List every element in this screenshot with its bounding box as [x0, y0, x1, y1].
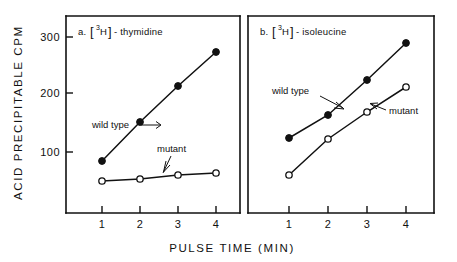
panel-b-x-ticklabel-2: 2: [325, 218, 332, 230]
panel-b-title: b. [ 3 H ] - isoleucine: [260, 24, 346, 39]
panel-a-x-ticklabel-4: 4: [213, 218, 220, 230]
figure-container: ACID PRECIPITABLE CPM 300 200 100 1: [0, 0, 457, 262]
panel-a-wild-type-point-3: [175, 83, 182, 90]
panel-b-x-ticklabel-4: 4: [403, 218, 410, 230]
panel-a-mutant-arrowhead: [164, 161, 171, 172]
panel-a-mutant-point-3: [175, 172, 181, 178]
panel-b-wild-type-point-2: [325, 112, 332, 119]
panel-b-mutant-line: [289, 87, 406, 175]
panel-b-mutant-label: mutant: [389, 105, 418, 116]
panel-b-axes: 1 2 3 4: [248, 16, 434, 230]
panel-a-wild-type-label: wild type: [91, 119, 129, 130]
panel-a-wild-type-annotation: wild type: [91, 119, 161, 130]
panel-b-mutant-point-4: [403, 84, 409, 90]
x-axis-title: PULSE TIME (MIN): [169, 242, 295, 254]
panel-a-series-mutant: [99, 170, 219, 184]
panel-b-wild-type-point-1: [286, 135, 293, 142]
panel-b-x-ticklabel-3: 3: [364, 218, 371, 230]
panel-b-bracket-close: ]: [290, 24, 294, 39]
panel-b-wild-type-point-4: [403, 40, 410, 47]
panel-a-mutant-annotation: mutant: [157, 143, 186, 173]
panel-a-mutant-line: [102, 173, 216, 181]
y-ticklabel-300: 300: [40, 31, 60, 43]
y-ticklabel-200: 200: [40, 87, 60, 99]
y-axis-title: ACID PRECIPITABLE CPM: [12, 25, 24, 200]
panel-a-mutant-point-1: [99, 178, 105, 184]
panel-a-wild-type-point-4: [213, 49, 220, 56]
panel-b-wild-type-leader: [320, 96, 343, 108]
panel-a-mutant-point-4: [213, 170, 219, 176]
panel-a-mutant-label: mutant: [157, 143, 186, 154]
chart-svg: ACID PRECIPITABLE CPM 300 200 100 1: [0, 0, 457, 262]
panel-b-mutant-point-1: [286, 172, 292, 178]
panel-a-x-ticklabel-3: 3: [175, 218, 182, 230]
panel-a-title: a. [ 3 H ] - thymidine: [78, 24, 163, 39]
panel-a-title-prefix: a.: [78, 26, 86, 37]
panel-b-title-prefix: b.: [260, 26, 268, 37]
panel-b-x-ticklabel-1: 1: [286, 218, 293, 230]
y-ticklabel-100: 100: [40, 146, 60, 158]
panel-a-isotope-element: H: [100, 26, 107, 37]
panel-b-title-suffix: - isoleucine: [296, 26, 346, 37]
panel-a-title-suffix: - thymidine: [114, 26, 163, 37]
panel-b-wild-type-annotation: wild type: [271, 85, 344, 109]
panel-b-wild-type-point-3: [364, 77, 371, 84]
panel-a-x-ticklabel-2: 2: [137, 218, 144, 230]
panel-b-isotope-element: H: [282, 26, 289, 37]
panel-a-wild-type-point-1: [99, 158, 106, 165]
panel-a-mutant-point-2: [137, 176, 143, 182]
panel-a-bracket-close: ]: [108, 24, 112, 39]
panel-b-mutant-point-3: [364, 109, 370, 115]
panel-b-bracket-open: [: [272, 24, 276, 39]
panel-a-x-ticklabel-1: 1: [99, 218, 106, 230]
panel-a-bracket-open: [: [90, 24, 94, 39]
panel-b-wild-type-label: wild type: [271, 85, 309, 96]
panel-a-wild-type-point-2: [137, 119, 144, 126]
panel-b-mutant-point-2: [325, 136, 331, 142]
